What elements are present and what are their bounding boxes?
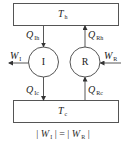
- abs-bar-left-open: |: [36, 128, 38, 139]
- w-i-subscript: I: [19, 56, 21, 62]
- q-ic-subscript: Ic: [34, 90, 39, 96]
- abs-bar-right-close: |: [88, 128, 90, 139]
- hot-reservoir-label: Th: [58, 9, 68, 22]
- q-rc-subscript: Rc: [96, 90, 103, 96]
- equation-w-r-symbol: W: [72, 128, 80, 139]
- abs-bar-right-open: |: [67, 128, 69, 139]
- q-ic-symbol: Q: [26, 84, 33, 95]
- cold-reservoir-label: Tc: [58, 106, 67, 119]
- w-i-label: WI: [10, 51, 21, 64]
- w-r-label: WR: [104, 51, 117, 64]
- q-rc-label: QRc: [88, 85, 103, 98]
- q-ih-subscript: Ih: [34, 35, 39, 41]
- equation-w-r-subscript: R: [81, 134, 85, 140]
- w-i-symbol: W: [10, 50, 18, 61]
- cold-reservoir-symbol: T: [58, 105, 64, 116]
- hot-reservoir-symbol: T: [58, 8, 64, 19]
- q-rc-symbol: Q: [88, 84, 95, 95]
- abs-bar-left-close: |: [55, 128, 57, 139]
- equals-sign: =: [59, 128, 65, 139]
- equation-w-i-subscript: I: [50, 134, 52, 140]
- cold-reservoir-subscript: c: [65, 111, 68, 117]
- w-r-subscript: R: [113, 56, 117, 62]
- refrigerator-label: R: [75, 57, 95, 67]
- equation-w-i-symbol: W: [41, 128, 49, 139]
- q-ih-label: QIh: [26, 30, 39, 43]
- q-rh-symbol: Q: [88, 29, 95, 40]
- w-r-symbol: W: [104, 50, 112, 61]
- diagram-canvas: [0, 0, 126, 149]
- engine-label: I: [34, 57, 54, 67]
- work-equality-equation: | WI | = | WR |: [0, 128, 126, 140]
- q-rh-subscript: Rh: [96, 35, 103, 41]
- q-ih-symbol: Q: [26, 29, 33, 40]
- hot-reservoir-subscript: h: [65, 14, 68, 20]
- q-rh-label: QRh: [88, 30, 103, 43]
- q-ic-label: QIc: [26, 85, 39, 98]
